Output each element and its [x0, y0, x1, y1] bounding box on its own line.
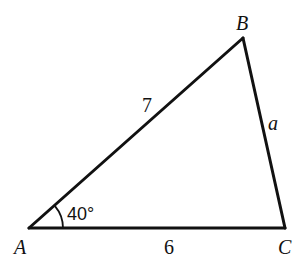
- side-BC: [243, 38, 285, 228]
- vertex-label-B: B: [236, 12, 248, 34]
- triangle-diagram: A B C 7 a 6 40°: [0, 0, 303, 266]
- angle-arc-A: [55, 206, 63, 228]
- angle-label-A: 40°: [67, 204, 94, 224]
- side-label-AC: 6: [164, 236, 174, 258]
- side-label-BC: a: [268, 112, 278, 134]
- side-AB: [29, 38, 243, 228]
- vertex-label-A: A: [12, 236, 27, 258]
- vertex-label-C: C: [278, 236, 292, 258]
- side-label-AB: 7: [142, 94, 152, 116]
